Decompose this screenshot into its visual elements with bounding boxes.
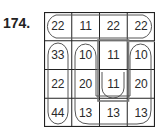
number-grid: 22 11 22 22 33 10 11 10 22 20 11 20 44 1… [44,12,155,127]
problem-number: 174. [3,15,30,31]
grid-cell: 22 [127,12,155,41]
grid-cell: 13 [127,98,155,127]
grid-cell: 20 [72,70,100,99]
grid-cell: 11 [72,12,100,41]
grid-cell: 10 [72,41,100,70]
grid-cell: 10 [127,41,155,70]
grid-cell: 11 [100,41,128,70]
grid-cell: 20 [127,70,155,99]
grid-cell: 13 [72,98,100,127]
grid-cell: 22 [44,12,72,41]
grid-cell: 44 [44,98,72,127]
grid-cell: 22 [44,70,72,99]
grid-cell: 33 [44,41,72,70]
grid-cell: 22 [100,12,128,41]
grid-cell: 11 [100,70,128,99]
grid-cell: 13 [100,98,128,127]
